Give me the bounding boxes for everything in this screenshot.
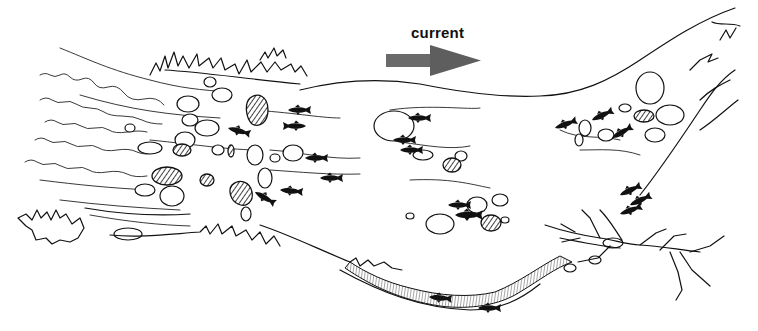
upper-bank-line [300,8,735,96]
current-arrow-icon [386,45,481,76]
rocks [114,72,684,272]
upper-vegetation [150,48,307,84]
current-label: current [411,24,464,41]
stream-illustration [0,0,758,331]
right-bank [640,28,738,195]
fallen-tree [545,210,724,300]
riffle-lines [25,48,640,226]
fish-group [227,105,653,314]
